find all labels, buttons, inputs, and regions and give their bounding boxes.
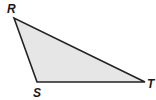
vertex-label-r: R bbox=[7, 2, 16, 16]
triangle-rst bbox=[14, 18, 145, 82]
vertex-label-s: S bbox=[33, 86, 41, 100]
vertex-label-t: T bbox=[147, 77, 156, 91]
triangle-diagram: R S T bbox=[0, 0, 156, 100]
